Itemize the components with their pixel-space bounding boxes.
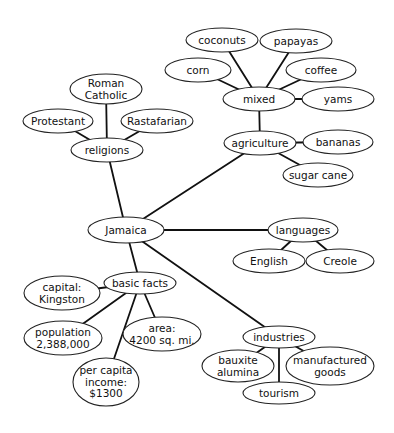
node-label: papayas xyxy=(274,35,318,47)
node-mixed: mixed xyxy=(223,87,295,111)
node-rastafarian: Rastafarian xyxy=(121,109,193,133)
node-label: 2,388,000 xyxy=(36,338,89,350)
node-coconuts: coconuts xyxy=(186,28,258,52)
node-basic-facts: basic facts xyxy=(104,272,176,294)
concept-map: JamaicareligionsRomanCatholicProtestantR… xyxy=(0,0,394,433)
node-languages: languages xyxy=(268,218,338,242)
node-label: goods xyxy=(314,366,346,378)
node-english: English xyxy=(233,249,305,273)
node-creole: Creole xyxy=(306,249,374,273)
node-label: mixed xyxy=(243,93,275,105)
node-industries: industries xyxy=(243,326,315,348)
node-jamaica: Jamaica xyxy=(88,217,164,243)
node-label: area: xyxy=(149,322,176,334)
node-label: bananas xyxy=(316,136,361,148)
node-label: per capita xyxy=(79,364,132,376)
node-population: population2,388,000 xyxy=(24,321,102,355)
edge-jamaica-agriculture xyxy=(126,143,260,230)
node-label: Jamaica xyxy=(104,224,146,236)
node-coffee: coffee xyxy=(286,58,356,82)
node-label: coconuts xyxy=(198,34,245,46)
node-sugar-cane: sugar cane xyxy=(283,163,353,187)
node-religions: religions xyxy=(71,138,143,162)
node-label: Protestant xyxy=(31,115,85,127)
node-label: religions xyxy=(85,144,130,156)
node-label: English xyxy=(250,255,288,267)
node-bauxite-alumina: bauxitealumina xyxy=(202,350,274,382)
node-label: $1300 xyxy=(89,387,122,399)
node-label: alumina xyxy=(217,366,259,378)
node-per-capita-income: per capitaincome:$1300 xyxy=(73,358,139,406)
node-label: sugar cane xyxy=(289,169,347,181)
node-roman-catholic: RomanCatholic xyxy=(70,74,142,104)
node-label: coffee xyxy=(305,64,337,76)
node-label: income: xyxy=(85,376,127,388)
node-label: yams xyxy=(324,93,352,105)
node-protestant: Protestant xyxy=(23,109,93,133)
nodes-layer: JamaicareligionsRomanCatholicProtestantR… xyxy=(23,28,374,406)
node-bananas: bananas xyxy=(303,130,373,154)
node-label: Catholic xyxy=(85,89,128,101)
node-label: corn xyxy=(187,64,210,76)
node-label: Roman xyxy=(88,77,125,89)
node-label: Rastafarian xyxy=(127,115,187,127)
node-label: Kingston xyxy=(39,293,85,305)
node-area: area:4200 sq. mi. xyxy=(123,317,201,351)
node-agriculture: agriculture xyxy=(224,131,296,155)
node-capital: capital:Kingston xyxy=(24,276,100,310)
node-label: Creole xyxy=(323,255,357,267)
node-label: population xyxy=(35,326,91,338)
node-label: manufactured xyxy=(293,354,367,366)
node-label: languages xyxy=(276,224,330,236)
node-label: tourism xyxy=(259,387,299,399)
node-label: capital: xyxy=(43,281,82,293)
node-label: 4200 sq. mi. xyxy=(129,334,194,346)
node-tourism: tourism xyxy=(243,382,315,404)
node-manufactured-goods: manufacturedgoods xyxy=(286,347,374,385)
node-corn: corn xyxy=(165,58,231,82)
node-yams: yams xyxy=(302,87,374,111)
node-label: agriculture xyxy=(232,137,289,149)
node-label: industries xyxy=(253,331,305,343)
node-papayas: papayas xyxy=(260,29,332,53)
node-label: bauxite xyxy=(218,354,257,366)
node-label: basic facts xyxy=(112,277,168,289)
